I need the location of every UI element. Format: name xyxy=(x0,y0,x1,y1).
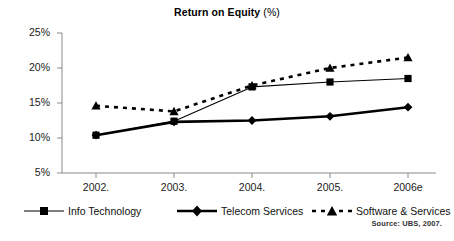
x-axis-tick-label: 2004. xyxy=(222,181,282,193)
data-point-diamond xyxy=(404,103,413,112)
series-telecom-services xyxy=(92,103,413,140)
legend-key-triangle-dashed xyxy=(310,204,354,218)
legend-label: Telecom Services xyxy=(221,205,303,217)
chart-legend: Info Technology Telecom Services Softwar… xyxy=(0,203,454,219)
legend-item-telecom-services[interactable]: Telecom Services xyxy=(175,203,303,219)
legend-key-diamond-solid xyxy=(175,204,219,218)
series-layer xyxy=(91,53,412,140)
legend-key-square-solid xyxy=(22,204,66,218)
x-axis-tick-label: 2006e xyxy=(378,181,438,193)
x-axis-ticks xyxy=(96,173,408,178)
y-axis-tick-label: 15% xyxy=(8,96,50,108)
chart-screenshot: Return on Equity (%) 25%20%15%10%5% 2002… xyxy=(0,0,454,241)
data-point-square xyxy=(404,75,411,82)
x-axis-tick-label: 2002. xyxy=(66,181,126,193)
y-axis-tick-label: 10% xyxy=(8,131,50,143)
data-point-diamond xyxy=(326,112,335,121)
legend-label: Info Technology xyxy=(68,205,141,217)
y-axis-tick-label: 5% xyxy=(8,166,50,178)
axes xyxy=(57,33,436,178)
legend-item-info-technology[interactable]: Info Technology xyxy=(22,203,141,219)
x-axis-tick-label: 2003. xyxy=(144,181,204,193)
y-axis-ticks xyxy=(57,33,62,173)
x-axis-tick-label: 2005. xyxy=(300,181,360,193)
legend-item-software-services[interactable]: Software & Services xyxy=(310,203,451,219)
y-axis-tick-label: 25% xyxy=(8,26,50,38)
legend-label: Software & Services xyxy=(356,205,451,217)
data-point-square xyxy=(326,78,333,85)
data-point-diamond xyxy=(248,116,257,125)
series-software-services xyxy=(91,53,412,115)
y-axis-tick-label: 20% xyxy=(8,61,50,73)
source-note: Source: UBS, 2007. xyxy=(371,219,442,228)
